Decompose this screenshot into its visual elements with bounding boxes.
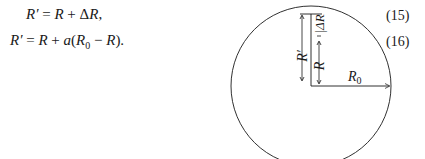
delta-r-label: |ΔR <box>312 14 327 33</box>
r0-label: R0 <box>347 69 362 86</box>
circle-diagram: R′ R |ΔR R0 <box>0 0 425 159</box>
r-label: R <box>312 61 327 71</box>
r-prime-label: R′ <box>295 49 310 63</box>
